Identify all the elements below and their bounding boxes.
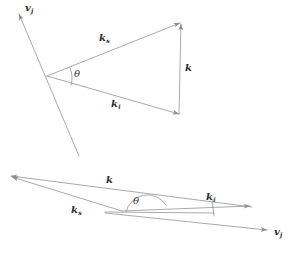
- bottom-ks-label: ks: [71, 205, 82, 216]
- top-k-vector: [179, 24, 181, 114]
- figure-canvas: vj ks ki k θ k ks ki vj θ: [0, 0, 294, 253]
- bottom-reference-line: [105, 212, 214, 213]
- top-theta-label: θ: [74, 69, 80, 79]
- top-k-label: k: [185, 63, 192, 74]
- bottom-theta-label: θ: [133, 196, 139, 206]
- bottom-ki-label: ki: [206, 192, 216, 203]
- bottom-vj-vector: [105, 213, 267, 230]
- top-ks-label: ks: [99, 33, 110, 44]
- vector-diagram-svg: [0, 0, 294, 253]
- bottom-ki-vector: [122, 206, 250, 211]
- top-ks-vector: [47, 23, 180, 76]
- top-vj-vector: [19, 14, 79, 156]
- top-vj-label: vj: [25, 3, 33, 14]
- top-ki-label: ki: [111, 99, 121, 110]
- bottom-k-label: k: [106, 175, 113, 186]
- bottom-vj-label: vj: [274, 227, 282, 238]
